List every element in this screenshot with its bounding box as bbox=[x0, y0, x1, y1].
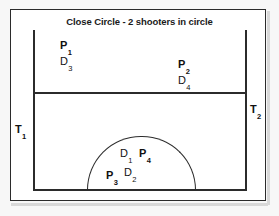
label-d3-base: D bbox=[60, 55, 68, 67]
label-p3: P3 bbox=[106, 166, 118, 185]
label-t2: T2 bbox=[250, 100, 261, 119]
page-shadow-bottom bbox=[11, 203, 268, 206]
label-p4-base: P bbox=[139, 147, 146, 159]
label-d3-subscript: 3 bbox=[68, 64, 72, 73]
label-p3-subscript: 3 bbox=[114, 178, 118, 187]
label-d1-base: D bbox=[120, 147, 128, 159]
label-d4: D4 bbox=[178, 71, 190, 90]
label-t2-subscript: 2 bbox=[257, 112, 261, 121]
diagram-title: Close Circle - 2 shooters in circle bbox=[0, 16, 279, 27]
label-t2-base: T bbox=[250, 103, 257, 115]
label-d4-subscript: 4 bbox=[186, 83, 190, 92]
court-sideline-right bbox=[245, 30, 247, 191]
label-d1: D1 bbox=[120, 144, 132, 163]
label-p4-subscript: 4 bbox=[147, 156, 151, 165]
label-t1-subscript: 1 bbox=[22, 132, 26, 141]
label-d2-base: D bbox=[124, 166, 132, 178]
label-p4: P4 bbox=[139, 144, 151, 163]
page-shadow-right bbox=[267, 11, 270, 205]
label-d2: D2 bbox=[124, 163, 136, 182]
label-d2-subscript: 2 bbox=[132, 175, 136, 184]
label-t1: T1 bbox=[15, 120, 26, 139]
court-transverse-line bbox=[33, 92, 247, 94]
label-p2-base: P bbox=[178, 58, 185, 70]
label-p3-base: P bbox=[106, 169, 113, 181]
label-p1-base: P bbox=[60, 39, 67, 51]
diagram-canvas: Close Circle - 2 shooters in circle P1 D… bbox=[0, 0, 279, 216]
label-t1-base: T bbox=[15, 123, 22, 135]
court-sideline-left bbox=[33, 30, 35, 191]
label-d3: D3 bbox=[60, 52, 72, 71]
label-d4-base: D bbox=[178, 74, 186, 86]
